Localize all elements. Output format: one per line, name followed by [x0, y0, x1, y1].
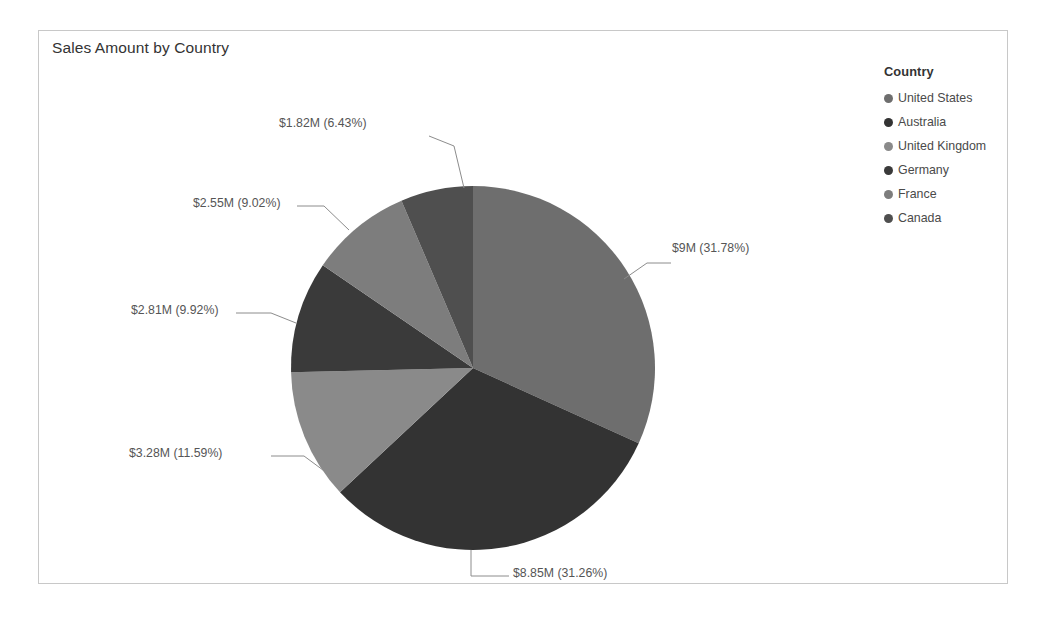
- leader-line-australia: [471, 550, 509, 576]
- data-label-canada: $1.82M (6.43%): [279, 116, 367, 130]
- legend-item-australia[interactable]: Australia: [884, 110, 1004, 134]
- legend-item-label: Germany: [898, 163, 949, 177]
- legend-swatch-icon: [884, 142, 893, 151]
- data-label-united-states: $9M (31.78%): [672, 241, 749, 255]
- legend-item-label: United States: [898, 91, 972, 105]
- data-label-france: $2.55M (9.02%): [193, 196, 281, 210]
- legend-swatch-icon: [884, 118, 893, 127]
- legend-item-united-states[interactable]: United States: [884, 86, 1004, 110]
- legend: Country United States Australia United K…: [884, 64, 1004, 230]
- legend-swatch-icon: [884, 166, 893, 175]
- data-label-united-kingdom: $3.28M (11.59%): [129, 446, 222, 460]
- leader-line-united-states: [624, 263, 671, 279]
- legend-item-label: Canada: [898, 211, 941, 225]
- legend-title: Country: [884, 64, 1004, 79]
- legend-item-canada[interactable]: Canada: [884, 206, 1004, 230]
- legend-item-label: Australia: [898, 115, 946, 129]
- legend-item-germany[interactable]: Germany: [884, 158, 1004, 182]
- pie-chart-plot-area: $9M (31.78%) $8.85M (31.26%) $3.28M (11.…: [39, 31, 1009, 585]
- legend-swatch-icon: [884, 190, 893, 199]
- legend-item-label: United Kingdom: [898, 139, 986, 153]
- data-label-australia: $8.85M (31.26%): [513, 566, 607, 580]
- data-label-germany: $2.81M (9.92%): [131, 303, 219, 317]
- legend-item-united-kingdom[interactable]: United Kingdom: [884, 134, 1004, 158]
- legend-swatch-icon: [884, 94, 893, 103]
- leader-line-germany: [236, 313, 296, 323]
- leader-line-canada: [429, 136, 464, 188]
- legend-item-france[interactable]: France: [884, 182, 1004, 206]
- legend-swatch-icon: [884, 214, 893, 223]
- legend-item-label: France: [898, 187, 937, 201]
- chart-card: Sales Amount by Country $9M (31.7: [38, 30, 1008, 584]
- leader-line-france: [297, 206, 349, 230]
